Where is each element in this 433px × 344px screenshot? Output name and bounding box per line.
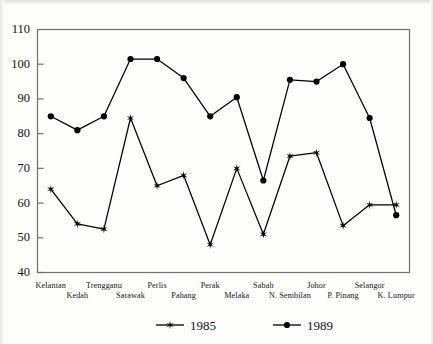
y-axis-tick-label: 70 bbox=[4, 162, 30, 175]
x-axis-tick-label: Kelantan bbox=[36, 282, 66, 290]
series-line bbox=[51, 59, 396, 215]
data-point-marker bbox=[313, 78, 319, 84]
x-axis-tick-label: K. Lumpur bbox=[378, 292, 415, 300]
data-point-marker bbox=[260, 177, 266, 183]
series-1989 bbox=[48, 56, 400, 218]
legend-label: 1985 bbox=[190, 319, 216, 332]
y-axis-ticks bbox=[38, 64, 44, 272]
data-point-marker bbox=[154, 56, 160, 62]
data-point-marker bbox=[180, 171, 187, 180]
data-point-marker bbox=[127, 114, 134, 123]
chart-legend: 19851989 bbox=[0, 316, 433, 338]
series-1985 bbox=[47, 114, 400, 249]
y-axis-tick-label: 90 bbox=[4, 92, 30, 105]
data-point-marker bbox=[287, 77, 293, 83]
x-axis-tick-label: Sarawak bbox=[116, 292, 145, 300]
legend-label: 1989 bbox=[307, 319, 333, 332]
chart-figure: 405060708090100110 KelantanKedahTrenggan… bbox=[0, 0, 433, 344]
x-axis-tick-label: N. Sembilan bbox=[269, 292, 311, 300]
data-point-marker bbox=[181, 75, 187, 81]
data-point-marker bbox=[393, 212, 399, 218]
x-axis-tick-label: Perlis bbox=[147, 282, 166, 290]
x-axis-tick-label: Perak bbox=[201, 282, 220, 290]
data-point-marker bbox=[101, 113, 107, 119]
x-axis-tick-label: Kedah bbox=[66, 292, 88, 300]
y-axis-tick-label: 80 bbox=[4, 127, 30, 140]
legend-circle-icon bbox=[272, 318, 302, 332]
data-point-marker bbox=[284, 322, 290, 328]
x-axis-tick-label: Selangor bbox=[355, 282, 385, 290]
x-axis-tick-label: Sabah bbox=[253, 282, 274, 290]
y-axis-tick-label: 110 bbox=[4, 23, 30, 36]
x-axis-tick-label: Melaka bbox=[224, 292, 249, 300]
x-axis-tick-label: P. Pinang bbox=[327, 292, 358, 300]
legend-star-icon bbox=[155, 318, 185, 332]
x-axis-tick-label: Johor bbox=[307, 282, 326, 290]
data-point-marker bbox=[207, 113, 213, 119]
data-point-marker bbox=[234, 94, 240, 100]
line-chart-plot bbox=[0, 0, 433, 344]
x-axis-tick-label: Trengganu bbox=[86, 282, 122, 290]
data-point-marker bbox=[206, 240, 213, 249]
data-point-marker bbox=[260, 230, 267, 239]
data-series-layer bbox=[47, 56, 400, 249]
legend-entry-1985[interactable]: 1985 bbox=[155, 318, 216, 332]
x-axis-tick-label: Pahang bbox=[171, 292, 196, 300]
plot-frame bbox=[38, 30, 410, 273]
data-point-marker bbox=[127, 56, 133, 62]
legend-entry-1989[interactable]: 1989 bbox=[272, 318, 333, 332]
data-point-marker bbox=[367, 115, 373, 121]
y-axis-tick-label: 40 bbox=[4, 266, 30, 279]
y-axis-tick-label: 100 bbox=[4, 58, 30, 71]
data-point-marker bbox=[233, 164, 240, 173]
y-axis-tick-label: 60 bbox=[4, 197, 30, 210]
data-point-marker bbox=[153, 181, 160, 190]
y-axis-tick-label: 50 bbox=[4, 231, 30, 244]
data-point-marker bbox=[340, 61, 346, 67]
data-point-marker bbox=[339, 221, 346, 230]
data-point-marker bbox=[48, 113, 54, 119]
data-point-marker bbox=[74, 127, 80, 133]
